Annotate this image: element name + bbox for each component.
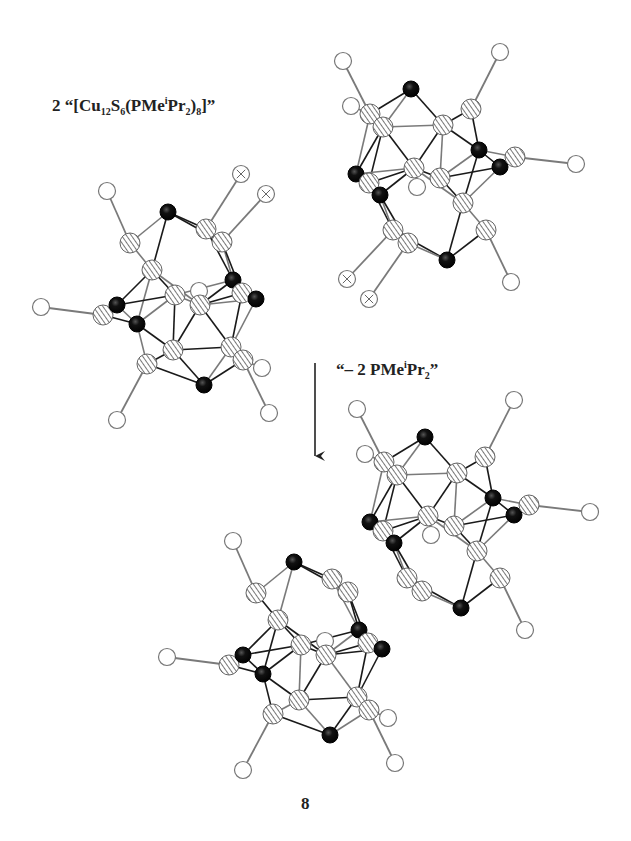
copper-atom (444, 516, 464, 536)
sulfur-atom (386, 535, 402, 551)
copper-atom (263, 704, 283, 724)
copper-atom (120, 233, 140, 253)
copper-atom (289, 690, 309, 710)
copper-atom (233, 350, 253, 370)
phosphorus-atom (349, 401, 366, 418)
copper-atom (412, 581, 432, 601)
copper-atom (461, 99, 481, 119)
copper-atom (476, 220, 496, 240)
copper-atom (316, 645, 336, 665)
phosphorus-atom (33, 299, 50, 316)
sulfur-atom (374, 641, 390, 657)
copper-atom (387, 465, 407, 485)
phosphorus-atom (343, 98, 360, 115)
phosphorus-atom (380, 710, 397, 727)
copper-atom (475, 447, 495, 467)
phosphorus-atom (387, 755, 404, 772)
copper-atom (519, 495, 539, 515)
copper-atom (505, 147, 525, 167)
copper-atom (467, 541, 487, 561)
phosphorus-atom (568, 156, 585, 173)
copper-atom (268, 610, 288, 630)
phosphorus-atom (335, 53, 352, 70)
molecular-structure-diagram (0, 0, 631, 841)
copper-atom (142, 260, 162, 280)
copper-atom (447, 463, 467, 483)
phosphorus-atom (492, 44, 509, 61)
ligand-elimination-label: “– 2 PMeiPr2” (336, 359, 438, 381)
phosphorus-atom (517, 622, 534, 639)
phosphorus-atom (423, 527, 440, 544)
sulfur-atom (417, 429, 433, 445)
sulfur-atom (439, 252, 455, 268)
copper-atom (190, 295, 210, 315)
copper-atom (291, 635, 311, 655)
sulfur-atom (248, 291, 264, 307)
phosphorus-atom (506, 392, 523, 409)
phosphorus-atom (99, 183, 116, 200)
phosphorus-atom (159, 649, 176, 666)
copper-atom (246, 583, 266, 603)
copper-atom (490, 568, 510, 588)
sulfur-atom (372, 187, 388, 203)
phosphorus-atom (582, 504, 599, 521)
copper-atom (418, 506, 438, 526)
compound-number: 8 (301, 794, 310, 814)
copper-atom (453, 193, 473, 213)
sulfur-atom (109, 297, 125, 313)
reactant-formula-label: 2 “[Cu12S6(PMeiPr2)8]” (52, 95, 215, 117)
sulfur-atom (160, 204, 176, 220)
phosphorus-atom-crossed (361, 291, 378, 308)
sulfur-atom (255, 666, 271, 682)
phosphorus-atom (261, 405, 278, 422)
phosphorus-atom-crossed (339, 271, 356, 288)
phosphorus-atom (357, 446, 374, 463)
phosphorus-atom (109, 412, 126, 429)
phosphorus-atom-crossed (258, 186, 275, 203)
copper-atom (137, 354, 157, 374)
sulfur-atom (286, 554, 302, 570)
copper-atom (338, 582, 358, 602)
phosphorus-atom (409, 179, 426, 196)
sulfur-atom (485, 490, 501, 506)
phosphorus-atom (503, 274, 520, 291)
sulfur-atom (453, 600, 469, 616)
sulfur-atom (322, 727, 338, 743)
copper-atom (163, 340, 183, 360)
phosphorus-atom (254, 360, 271, 377)
sulfur-atom (471, 142, 487, 158)
sulfur-atom (196, 377, 212, 393)
phosphorus-atom (225, 533, 242, 550)
sulfur-atom (129, 316, 145, 332)
copper-atom (165, 285, 185, 305)
figure-canvas: 2 “[Cu12S6(PMeiPr2)8]” “– 2 PMeiPr2” 8 (0, 0, 631, 841)
sulfur-atom (403, 81, 419, 97)
copper-atom (322, 569, 342, 589)
copper-atom (433, 115, 453, 135)
sulfur-atom (235, 647, 251, 663)
copper-atom (196, 219, 216, 239)
copper-atom (373, 117, 393, 137)
copper-atom (404, 158, 424, 178)
copper-atom (398, 233, 418, 253)
phosphorus-atom-crossed (233, 166, 250, 183)
copper-atom (359, 700, 379, 720)
copper-atom (430, 168, 450, 188)
copper-atom (212, 232, 232, 252)
phosphorus-atom (235, 762, 252, 779)
